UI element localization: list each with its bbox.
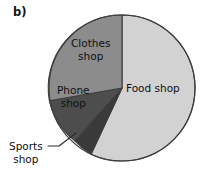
slice-label-food-shop: Food shop: [126, 82, 180, 95]
slice-label-phone-shop-line2: shop: [57, 97, 90, 110]
slice-label-clothes-shop-line1: Clothes: [71, 37, 110, 50]
pie-chart-figure: b) Food shop Clothes shop Phone shop Spo…: [0, 0, 208, 188]
slice-label-phone-shop: Phone shop: [57, 84, 90, 109]
slice-label-food-shop-line1: Food shop: [126, 82, 180, 94]
slice-label-sports-shop-line2: shop: [9, 153, 43, 166]
slice-label-phone-shop-line1: Phone: [57, 84, 90, 97]
slice-label-sports-shop-line1: Sports: [9, 140, 43, 153]
slice-label-clothes-shop: Clothes shop: [71, 37, 110, 62]
panel-label: b): [13, 6, 27, 19]
slice-label-clothes-shop-line2: shop: [71, 50, 110, 63]
slice-label-sports-shop: Sports shop: [9, 140, 43, 165]
